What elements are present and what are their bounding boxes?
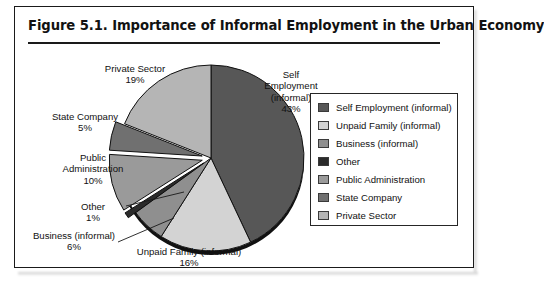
legend-item-label: Unpaid Family (informal) (336, 120, 441, 131)
callout-business-line1: Business (informal) (33, 230, 115, 241)
pie-chart-svg (14, 6, 334, 268)
callout-other: Other 1% (62, 201, 124, 224)
legend-swatch-icon (318, 175, 329, 184)
callout-other-line1: Other (81, 201, 105, 212)
legend-item-label: Private Sector (336, 210, 396, 221)
callout-state-company: State Company 5% (38, 111, 132, 134)
legend-item[interactable]: Unpaid Family (informal) (311, 116, 457, 134)
legend-item[interactable]: Other (311, 152, 457, 170)
callout-business-pct: 6% (22, 241, 126, 252)
chart-area: Self Employment (informal) 43% Private S… (14, 6, 474, 268)
legend-item-label: State Company (336, 192, 402, 203)
callout-public-administration: Public Administration 10% (52, 152, 134, 186)
legend-item[interactable]: Self Employment (informal) (311, 98, 457, 116)
legend-swatch-icon (318, 157, 329, 166)
callout-state-company-line1: State Company (52, 111, 118, 122)
pie-chart (14, 6, 334, 268)
callout-public-administration-line1: Public (80, 152, 106, 163)
callout-other-pct: 1% (62, 212, 124, 223)
legend-item[interactable]: Private Sector (311, 206, 457, 224)
callout-private-sector: Private Sector 19% (92, 63, 178, 86)
callout-unpaid-family-pct: 16% (126, 257, 252, 268)
page-drop-shadow-bottom (18, 272, 478, 276)
callout-self-employment-line2: Employment (264, 80, 317, 91)
callout-private-sector-line1: Private Sector (105, 63, 165, 74)
legend-swatch-icon (318, 211, 329, 220)
legend-item-label: Other (336, 156, 360, 167)
callout-unpaid-family: Unpaid Family (informal) 16% (126, 246, 252, 269)
callout-business-informal: Business (informal) 6% (22, 230, 126, 253)
legend-item[interactable]: Business (informal) (311, 134, 457, 152)
legend-swatch-icon (318, 121, 329, 130)
callout-state-company-pct: 5% (38, 122, 132, 133)
callout-public-administration-pct: 10% (52, 175, 134, 186)
callout-public-administration-line2: Administration (63, 163, 124, 174)
legend-item-label: Public Administration (336, 174, 425, 185)
callout-private-sector-pct: 19% (92, 74, 178, 85)
legend-item[interactable]: Public Administration (311, 170, 457, 188)
legend-swatch-icon (318, 103, 329, 112)
legend-item-label: Self Employment (informal) (336, 102, 452, 113)
legend-swatch-icon (318, 193, 329, 202)
legend-item-label: Business (informal) (336, 138, 418, 149)
callout-unpaid-family-line1: Unpaid Family (informal) (137, 246, 242, 257)
callout-self-employment-line3: (informal) (271, 92, 312, 103)
legend: Self Employment (informal)Unpaid Family … (310, 93, 458, 226)
callout-self-employment-line1: Self (283, 69, 300, 80)
legend-item[interactable]: State Company (311, 188, 457, 206)
legend-swatch-icon (318, 139, 329, 148)
page-drop-shadow-right (474, 10, 478, 272)
